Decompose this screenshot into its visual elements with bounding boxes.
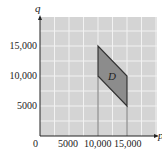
y-axis-label: q [35, 2, 41, 14]
x-tick-15000: 15,000 [114, 138, 142, 149]
x-tick-10000: 10,000 [84, 138, 112, 149]
origin-label: 0 [33, 138, 38, 149]
region-label: D [107, 70, 116, 82]
y-tick-5000: 5000 [17, 100, 37, 111]
y-tick-10000: 10,000 [10, 70, 38, 81]
chart: D q p 0 5000 10,000 15,000 5000 10,000 1… [0, 0, 162, 151]
x-axis-label: p [157, 129, 162, 141]
y-tick-15000: 15,000 [10, 40, 38, 51]
x-tick-5000: 5000 [58, 138, 78, 149]
